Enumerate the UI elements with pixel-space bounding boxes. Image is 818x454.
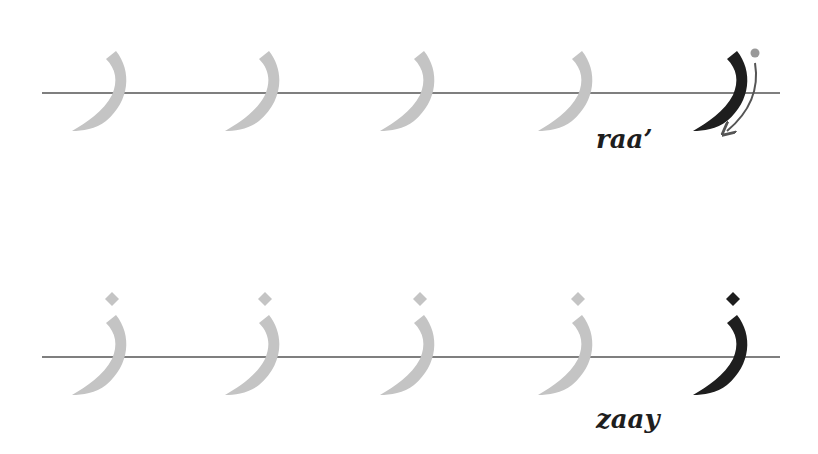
practice-dot-diamond-icon — [105, 292, 119, 306]
label-raa: raa’ — [596, 124, 652, 154]
practice-letter-raa — [72, 51, 126, 131]
stroke-start-dot-icon — [751, 49, 760, 58]
practice-dot-diamond-icon — [571, 292, 585, 306]
practice-letter-raa — [538, 51, 592, 131]
label-zaay: zaay — [596, 404, 660, 434]
practice-letter-zaay — [225, 315, 279, 395]
letter-practice-sheet — [0, 0, 818, 454]
model-dot-diamond-icon — [726, 292, 740, 306]
practice-letter-raa — [225, 51, 279, 131]
practice-letter-zaay — [72, 315, 126, 395]
model-letter-zaay — [693, 315, 747, 395]
practice-letter-raa — [380, 51, 434, 131]
practice-letter-zaay — [380, 315, 434, 395]
practice-dot-diamond-icon — [258, 292, 272, 306]
practice-letter-zaay — [538, 315, 592, 395]
practice-dot-diamond-icon — [413, 292, 427, 306]
